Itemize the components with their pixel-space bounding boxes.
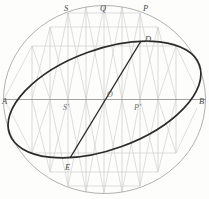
point-label-B: B	[199, 96, 204, 106]
diagonal-chord	[158, 27, 176, 99]
point-label-O: O	[107, 90, 113, 99]
point-label-A: A	[1, 96, 8, 106]
point-label-E: E	[64, 162, 71, 172]
point-label-S-prime: S'	[63, 103, 69, 112]
diagonal-chord	[176, 108, 197, 153]
point-label-P: P	[142, 3, 148, 13]
diagonal-chord	[140, 99, 158, 186]
diagonal-chord	[50, 27, 68, 99]
figure-canvas: S Q P D A B O S' P' E	[0, 0, 209, 199]
diagonal-chord	[50, 13, 68, 99]
diagonal-chord	[140, 99, 158, 172]
diagonal-chords-lower-group	[4, 99, 197, 193]
diagonal-chord	[158, 46, 176, 99]
diagonal-chord	[158, 99, 176, 153]
diagonal-chord	[32, 27, 50, 99]
diagonal-chord	[50, 99, 68, 186]
point-label-D: D	[144, 34, 152, 44]
geometry-figure: S Q P D A B O S' P' E	[0, 0, 209, 199]
point-label-P-prime: P'	[133, 103, 141, 112]
diagonal-chord	[32, 99, 50, 172]
diagonal-chord	[158, 99, 176, 172]
diagonal-chords-upper-group	[4, 6, 197, 99]
diagonal-chord	[176, 46, 197, 90]
diagonal-chord	[32, 99, 50, 153]
diagonal-chord	[140, 13, 158, 99]
point-label-Q: Q	[100, 3, 106, 13]
